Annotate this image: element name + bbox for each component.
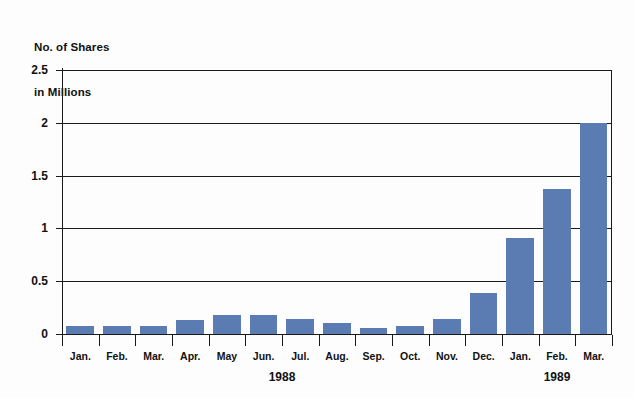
bar: [470, 293, 498, 334]
y-axis-tick-label: 0: [0, 327, 48, 341]
x-tick-mark: [612, 335, 613, 346]
x-tick-mark: [62, 335, 63, 346]
bar: [140, 326, 168, 334]
bar: [286, 319, 314, 334]
gridline-1: [62, 228, 612, 229]
x-tick-mark: [355, 335, 356, 346]
gridline-0: [62, 334, 612, 335]
x-axis-tick-label: Jan.: [70, 350, 91, 362]
x-axis-tick-label: Jan.: [510, 350, 531, 362]
x-tick-mark: [465, 335, 466, 346]
bar-chart: No. of Shares in Millions 00.511.522.5 J…: [0, 0, 634, 398]
bar: [360, 328, 388, 334]
x-axis-tick-label: Dec.: [473, 350, 495, 362]
x-axis-tick-label: Mar.: [143, 350, 164, 362]
gridline-2: [62, 123, 612, 124]
x-axis-tick-label: Feb.: [546, 350, 568, 362]
y-tick-mark: [56, 176, 69, 177]
y-tick-mark: [56, 228, 69, 229]
x-axis-tick-label: Mar.: [583, 350, 604, 362]
x-axis-tick-label: Sep.: [363, 350, 385, 362]
x-tick-mark: [172, 335, 173, 346]
bar: [66, 326, 94, 334]
bar: [433, 319, 461, 334]
x-tick-mark: [99, 335, 100, 346]
x-tick-mark: [282, 335, 283, 346]
x-tick-mark: [429, 335, 430, 346]
x-tick-mark: [539, 335, 540, 346]
x-axis-tick-label: Jul.: [291, 350, 309, 362]
y-axis-tick-label: 2: [0, 116, 48, 130]
bar: [323, 323, 351, 334]
x-axis-tick-label: Apr.: [180, 350, 200, 362]
plot-area: [62, 70, 612, 334]
y-tick-mark: [56, 281, 69, 282]
x-axis-tick-label: Nov.: [436, 350, 458, 362]
bar: [580, 123, 608, 334]
y-axis-tick-label: 2.5: [0, 63, 48, 77]
bar: [213, 315, 241, 334]
y-axis-tick-label: 0.5: [0, 274, 48, 288]
x-axis-tick-label: Aug.: [325, 350, 348, 362]
x-tick-mark: [319, 335, 320, 346]
x-axis-tick-label: Feb.: [106, 350, 128, 362]
y-axis-tick-label: 1: [0, 221, 48, 235]
chart-title-line-1: No. of Shares: [34, 40, 109, 55]
x-axis-tick-label: May: [217, 350, 237, 362]
x-tick-mark: [575, 335, 576, 346]
y-tick-mark: [56, 123, 69, 124]
gridline-1.5: [62, 176, 612, 177]
x-axis-group-label-1988: 1988: [269, 370, 296, 384]
y-axis-tick-label: 1.5: [0, 169, 48, 183]
bar: [176, 320, 204, 334]
x-tick-mark: [392, 335, 393, 346]
bar: [396, 326, 424, 334]
bar: [250, 315, 278, 334]
x-axis-tick-label: Jun.: [253, 350, 275, 362]
bar: [506, 238, 534, 334]
x-axis-group-label-1989: 1989: [544, 370, 571, 384]
bar: [543, 189, 571, 334]
x-tick-mark: [245, 335, 246, 346]
x-tick-mark: [135, 335, 136, 346]
y-tick-mark: [56, 70, 69, 71]
x-axis-tick-label: Oct.: [400, 350, 420, 362]
x-tick-mark: [502, 335, 503, 346]
bar: [103, 326, 131, 334]
x-tick-mark: [209, 335, 210, 346]
gridline-2.5: [62, 70, 612, 71]
